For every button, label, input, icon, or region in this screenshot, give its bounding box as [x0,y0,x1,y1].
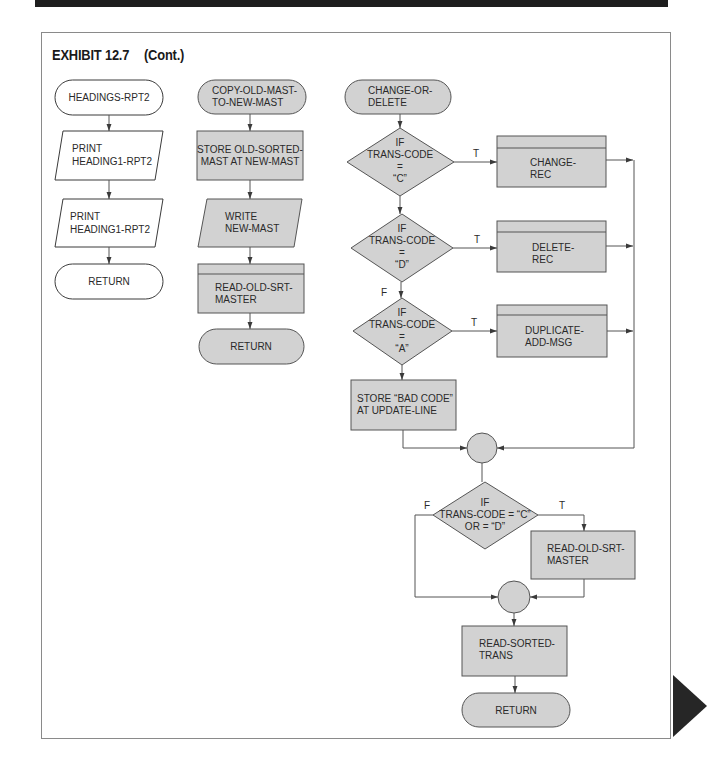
next-page-triangle-icon [673,675,707,737]
svg-text:IF: IF [398,223,407,234]
false-label-d: F [381,287,387,298]
true-label-a: T [471,317,477,328]
node-read-old-srt-master-col2: READ-OLD-SRT- MASTER [198,264,304,313]
svg-text:HEADINGS-RPT2: HEADINGS-RPT2 [68,92,150,103]
svg-text:WRITE: WRITE [225,211,258,222]
node-change-rec: CHANGE- REC [497,136,606,187]
node-change-or-delete-start: CHANGE-OR- DELETE [345,80,451,114]
node-delete-rec: DELETE- REC [497,221,606,272]
svg-text:PRINT: PRINT [70,211,100,222]
svg-text:DELETE-: DELETE- [532,242,574,253]
true-label-c: T [473,148,479,159]
node-return-col2: RETURN [199,329,304,364]
svg-text:IF: IF [481,497,490,508]
svg-text:“C”: “C” [393,173,407,184]
svg-text:TRANS-CODE: TRANS-CODE [369,319,435,330]
svg-text:DELETE: DELETE [368,97,407,108]
svg-text:“D”: “D” [395,259,409,270]
svg-text:REC: REC [532,254,553,265]
svg-text:PRINT: PRINT [72,143,102,154]
svg-text:DUPLICATE-: DUPLICATE- [525,325,584,336]
svg-text:IF: IF [396,137,405,148]
node-return-col3: RETURN [462,693,570,727]
node-print-heading1-a: PRINT HEADING1-RPT2 [55,131,163,180]
flowchart: HEADINGS-RPT2 PRINT HEADING1-RPT2 PRINT … [0,0,720,773]
node-duplicate-add-msg: DUPLICATE- ADD-MSG [497,305,607,357]
svg-text:=: = [397,161,403,172]
decision-trans-code-c-or-d: IF TRANS-CODE = “C” OR = “D” [433,482,538,549]
node-write-new-mast: WRITE NEW-MAST [198,199,302,247]
svg-text:HEADING1-RPT2: HEADING1-RPT2 [72,156,152,167]
true-label-c-or-d: T [559,500,565,511]
decision-trans-code-d: IF TRANS-CODE = “D” [351,214,453,282]
svg-text:=: = [399,247,405,258]
svg-text:TRANS: TRANS [479,650,513,661]
svg-text:CHANGE-OR-: CHANGE-OR- [368,85,432,96]
svg-text:STORE OLD-SORTED-: STORE OLD-SORTED- [197,144,303,155]
svg-text:TRANS-CODE: TRANS-CODE [367,149,433,160]
svg-text:TRANS-CODE: TRANS-CODE [369,235,435,246]
node-headings-rpt2-start: HEADINGS-RPT2 [55,80,163,115]
svg-text:READ-SORTED-: READ-SORTED- [479,638,555,649]
node-read-old-srt-master-col3: READ-OLD-SRT- MASTER [531,531,635,579]
node-store-bad-code: STORE “BAD CODE” AT UPDATE-LINE [351,380,456,430]
node-return-col1: RETURN [55,264,163,299]
svg-text:=: = [399,331,405,342]
decision-trans-code-a: IF TRANS-CODE = “A” [353,298,452,365]
svg-text:CHANGE-: CHANGE- [530,157,576,168]
node-copy-old-mast-start: COPY-OLD-MAST- TO-NEW-MAST [198,80,306,114]
node-read-sorted-trans: READ-SORTED- TRANS [462,626,567,676]
svg-text:COPY-OLD-MAST-: COPY-OLD-MAST- [212,85,297,96]
connector-2 [498,581,530,613]
svg-text:NEW-MAST: NEW-MAST [225,223,279,234]
decision-trans-code-c: IF TRANS-CODE = “C” [347,128,454,196]
svg-text:ADD-MSG: ADD-MSG [525,337,572,348]
svg-text:IF: IF [398,307,407,318]
svg-text:MAST AT NEW-MAST: MAST AT NEW-MAST [201,156,300,167]
svg-text:RETURN: RETURN [495,705,537,716]
svg-text:TRANS-CODE = “C”: TRANS-CODE = “C” [439,509,530,520]
svg-text:REC: REC [530,169,551,180]
node-print-heading1-b: PRINT HEADING1-RPT2 [55,199,163,247]
false-label-c-or-d: F [424,500,430,511]
svg-text:“A”: “A” [395,343,408,354]
svg-text:MASTER: MASTER [547,555,589,566]
connector-1 [467,433,497,463]
svg-text:OR = “D”: OR = “D” [465,521,505,532]
true-label-d: T [474,234,480,245]
svg-text:RETURN: RETURN [230,341,272,352]
svg-text:HEADING1-RPT2: HEADING1-RPT2 [70,224,150,235]
svg-text:AT UPDATE-LINE: AT UPDATE-LINE [357,405,437,416]
svg-text:READ-OLD-SRT-: READ-OLD-SRT- [547,543,625,554]
svg-text:STORE “BAD CODE”: STORE “BAD CODE” [357,393,453,404]
svg-text:MASTER: MASTER [215,294,257,305]
node-store-old-sorted-mast: STORE OLD-SORTED- MAST AT NEW-MAST [197,131,303,180]
svg-text:READ-OLD-SRT-: READ-OLD-SRT- [215,282,293,293]
svg-text:RETURN: RETURN [88,276,130,287]
svg-text:TO-NEW-MAST: TO-NEW-MAST [212,97,283,108]
